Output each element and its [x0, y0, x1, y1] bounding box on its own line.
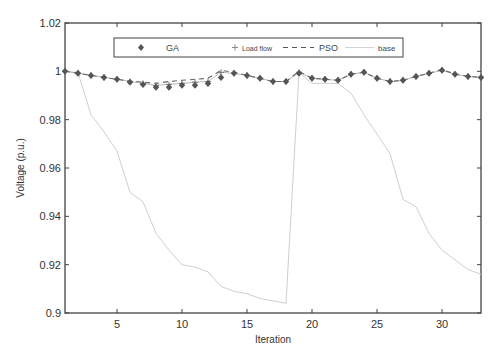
legend: GA Load flow PSO base	[114, 38, 403, 57]
y-tick-label: 0.94	[40, 210, 61, 222]
voltage-chart: 0.90.920.940.960.9811.02 51015202530 Ite…	[0, 0, 499, 360]
y-tick-label: 0.92	[40, 259, 61, 271]
legend-label-ga: GA	[166, 43, 179, 53]
y-tick-label: 0.9	[46, 307, 61, 319]
y-tick-label: 0.98	[40, 114, 61, 126]
plot-area	[65, 23, 481, 313]
legend-label-base: base	[378, 44, 396, 53]
y-axis-label: Voltage (p.u.)	[15, 138, 26, 197]
x-tick-label: 10	[176, 318, 188, 330]
y-tick-label: 1.02	[40, 17, 61, 29]
x-axis-label: Iteration	[255, 334, 291, 345]
x-tick-label: 15	[241, 318, 253, 330]
y-tick-label: 1	[55, 65, 61, 77]
y-tick-label: 0.96	[40, 162, 61, 174]
x-tick-label: 5	[114, 318, 120, 330]
x-tick-label: 30	[436, 318, 448, 330]
x-tick-label: 25	[371, 318, 383, 330]
x-tick-label: 20	[306, 318, 318, 330]
legend-label-pso: PSO	[319, 43, 338, 53]
legend-label-loadflow: Load flow	[242, 45, 273, 52]
